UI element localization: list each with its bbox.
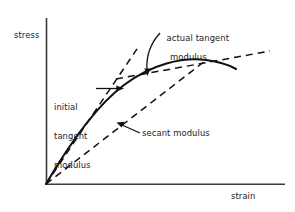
annotation-actual-tangent-modulus-line1: actual tangent: [167, 33, 230, 43]
secant-leader: [122, 125, 140, 133]
y-axis-label: stress: [14, 31, 39, 41]
annotation-secant-modulus: secant modulus: [142, 129, 210, 139]
actual-tangent-leader: [147, 33, 160, 70]
stress-strain-diagram: [0, 0, 295, 212]
annotation-initial-tangent-modulus: initial tangent modulus: [54, 84, 91, 180]
annotation-initial-tangent-modulus-line2: tangent: [54, 132, 91, 142]
annotation-actual-tangent-modulus-line2: modulus: [161, 53, 229, 63]
annotation-actual-tangent-modulus: actual tangent modulus: [161, 24, 229, 72]
annotation-initial-tangent-modulus-line3: modulus: [54, 161, 91, 171]
annotation-initial-tangent-modulus-line1: initial: [54, 103, 91, 113]
x-axis-label: strain: [231, 192, 255, 202]
